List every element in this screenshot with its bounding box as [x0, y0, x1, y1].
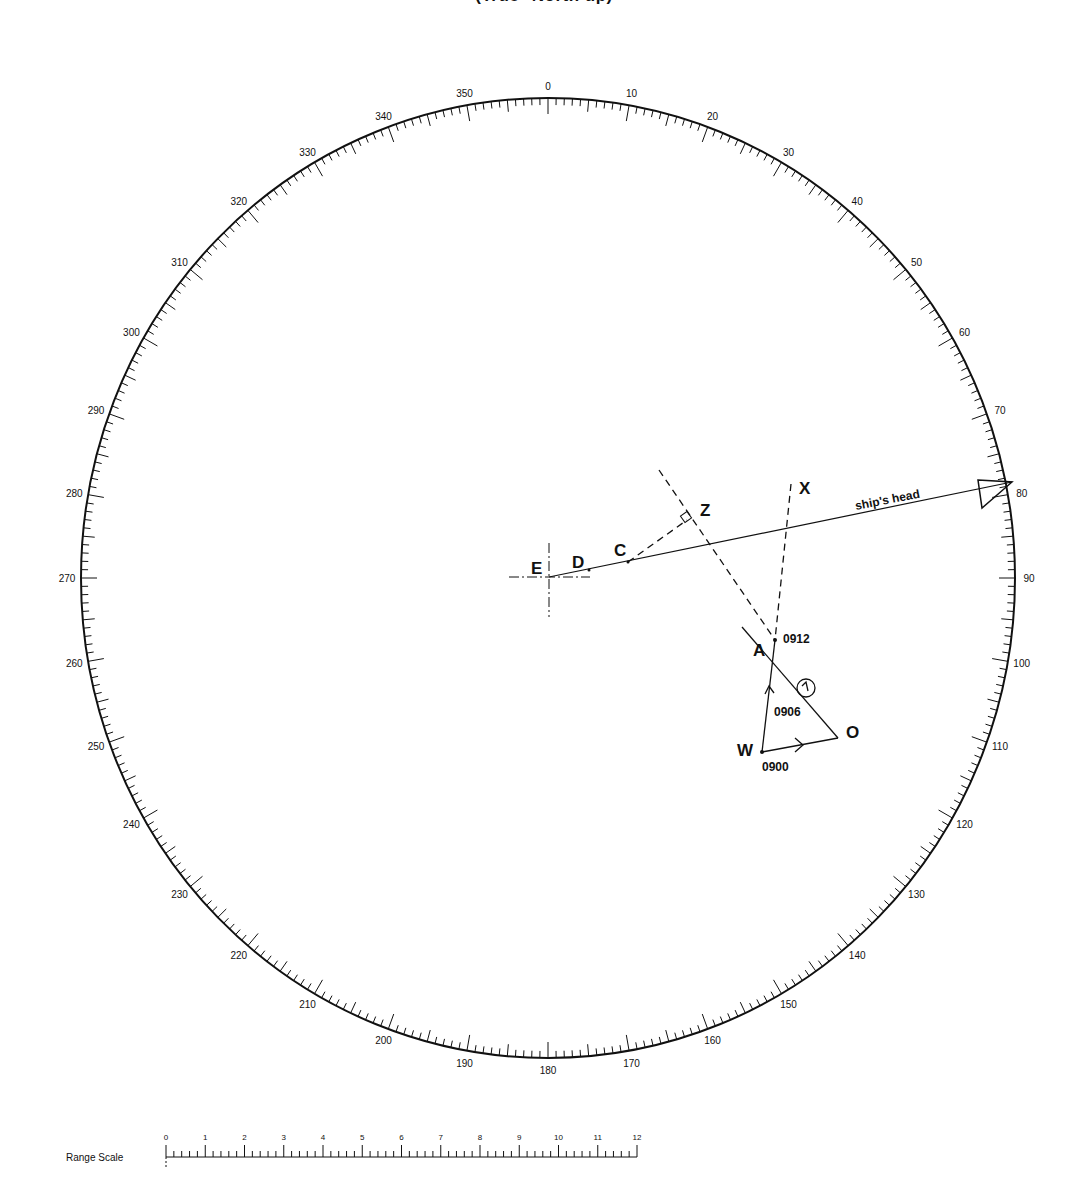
range-scale-tick-label: 2 — [242, 1133, 247, 1142]
time-0900: 0900 — [762, 760, 789, 774]
dashed-line-to-z — [628, 520, 687, 562]
bearing-label: 220 — [230, 950, 247, 961]
bearing-label: 300 — [123, 327, 140, 338]
bearing-label: 290 — [88, 405, 105, 416]
bearing-label: 280 — [66, 488, 83, 499]
bearing-label: 200 — [375, 1035, 392, 1046]
bearing-label: 180 — [540, 1065, 557, 1076]
range-scale-tick-label: 7 — [439, 1133, 444, 1142]
bearing-label: 10 — [626, 88, 638, 99]
bearing-label: 170 — [623, 1058, 640, 1069]
bearing-label: 140 — [849, 950, 866, 961]
range-scale-tick-label: 8 — [478, 1133, 483, 1142]
point-label-o: O — [846, 723, 859, 742]
bearing-label: 120 — [956, 819, 973, 830]
bearing-label: 210 — [299, 999, 316, 1010]
bearing-label: 100 — [1013, 658, 1030, 669]
point-label-c: C — [614, 541, 626, 560]
bearing-label: 150 — [780, 999, 797, 1010]
range-scale-tick-label: 12 — [633, 1133, 642, 1142]
bearing-label: 260 — [66, 658, 83, 669]
bearing-label: 60 — [959, 327, 971, 338]
bearing-label: 230 — [171, 889, 188, 900]
bearing-label: 270 — [59, 573, 76, 584]
bearing-label: 240 — [123, 819, 140, 830]
right-angle-marker-icon — [680, 511, 691, 522]
bearing-label: 90 — [1023, 573, 1035, 584]
radar-plotting-sheet: 0102030405060708090100110120130140150160… — [0, 0, 1088, 1193]
range-scale-tick-label: 11 — [594, 1133, 603, 1142]
bearing-label: 110 — [992, 741, 1008, 752]
point-label-x: X — [799, 479, 811, 498]
bearing-label: 250 — [88, 741, 105, 752]
bearing-label: 160 — [704, 1035, 721, 1046]
bearing-label: 320 — [230, 196, 247, 207]
bearing-label: 310 — [171, 257, 188, 268]
range-scale-tick-label: 4 — [321, 1133, 326, 1142]
bearing-label: 190 — [456, 1058, 473, 1069]
bearing-label: 40 — [852, 196, 864, 207]
range-scale-tick-label: 0 — [164, 1133, 169, 1142]
bearing-scale: 0102030405060708090100110120130140150160… — [59, 81, 1035, 1076]
point-label-w: W — [737, 741, 754, 760]
bearing-label: 350 — [456, 88, 473, 99]
bearing-label: 340 — [375, 111, 392, 122]
range-scale-tick-label: 5 — [360, 1133, 365, 1142]
bearing-label: 0 — [545, 81, 551, 92]
time-0912: 0912 — [783, 632, 810, 646]
bearing-label: 80 — [1016, 488, 1028, 499]
bearing-label: 130 — [908, 889, 925, 900]
ships-head-line — [549, 482, 1012, 577]
bearing-label: 70 — [994, 405, 1006, 416]
dashed-relative-motion-line — [659, 470, 775, 640]
range-scale-tick-label: 3 — [282, 1133, 287, 1142]
point-label-z: Z — [700, 501, 710, 520]
point-label-a: A — [753, 641, 765, 660]
point-label-e: E — [531, 559, 542, 578]
range-scale-tick-label: 6 — [399, 1133, 404, 1142]
point-label-d: D — [572, 553, 584, 572]
bearing-label: 30 — [783, 147, 795, 158]
ships-head-label: ship's head — [854, 487, 921, 513]
bearing-label: 50 — [911, 257, 923, 268]
range-scale: Range Scale 0123456789101112 — [66, 1133, 642, 1167]
bearing-label: 330 — [299, 147, 316, 158]
range-scale-tick-label: 10 — [554, 1133, 563, 1142]
bearing-label: 20 — [707, 111, 719, 122]
range-scale-tick-label: 1 — [203, 1133, 208, 1142]
range-scale-label: Range Scale — [66, 1152, 124, 1163]
dashed-line-x — [775, 484, 791, 640]
range-scale-tick-label: 9 — [517, 1133, 522, 1142]
time-0906: 0906 — [774, 705, 801, 719]
